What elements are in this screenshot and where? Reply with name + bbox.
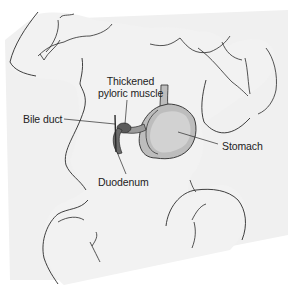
diagram-canvas: Thickened pyloric muscle Bile duct Stoma…	[0, 0, 288, 287]
label-duodenum: Duodenum	[98, 176, 149, 188]
label-thickened-line2: pyloric muscle	[98, 87, 163, 99]
label-bile-duct: Bile duct	[23, 113, 62, 125]
label-thickened-line1: Thickened	[98, 75, 163, 87]
label-stomach: Stomach	[222, 140, 263, 152]
bile-duct	[115, 115, 116, 152]
label-thickened-pyloric-muscle: Thickened pyloric muscle	[98, 75, 163, 99]
